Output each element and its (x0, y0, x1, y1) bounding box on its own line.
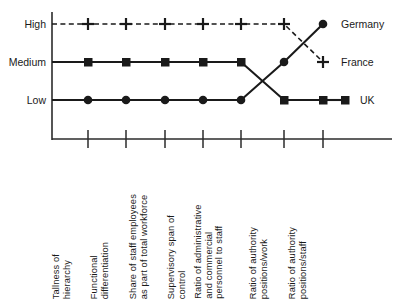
chart-plot-area: High Medium Low (0, 0, 402, 303)
legend-label-uk: UK (360, 94, 375, 106)
y-tick-label-high: High (24, 18, 46, 30)
y-tick-label-low: Low (27, 94, 47, 106)
legend-label-germany: Germany (341, 18, 385, 30)
legend-label-france: France (341, 56, 374, 68)
y-tick-label-medium: Medium (9, 56, 47, 68)
legend-marker-uk (341, 96, 350, 105)
organizational-structure-line-chart: High Medium Low (0, 0, 402, 303)
france-line (52, 24, 323, 62)
uk-line (52, 62, 323, 100)
chart-legend: Germany France UK (323, 18, 385, 106)
